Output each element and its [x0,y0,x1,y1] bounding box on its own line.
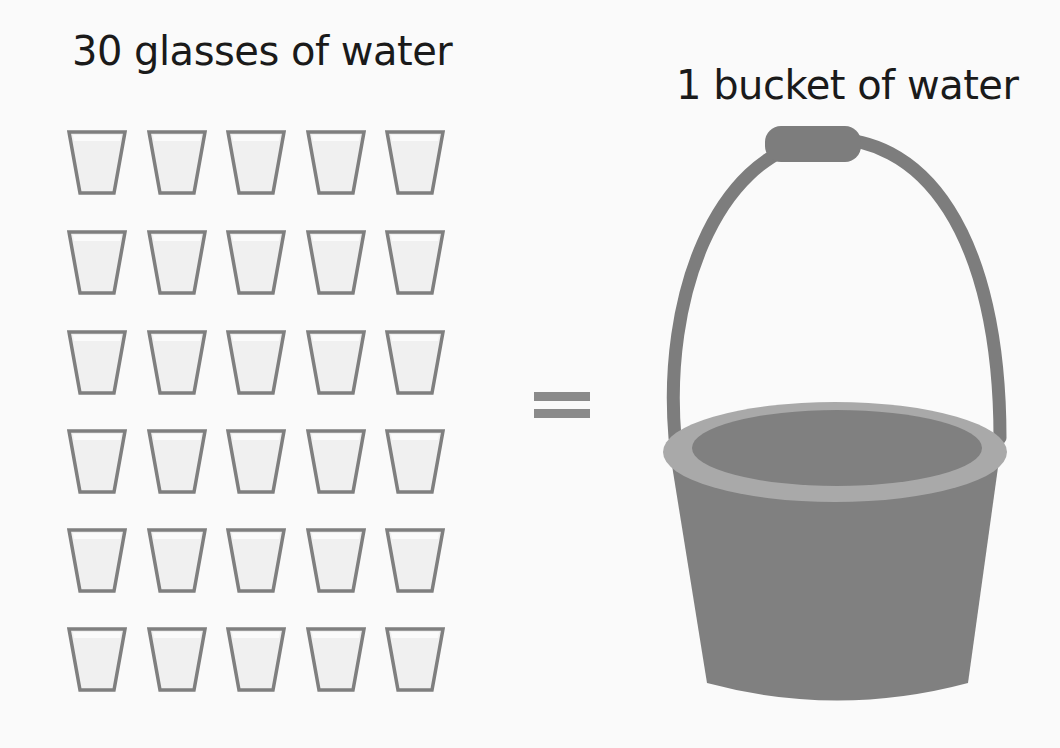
glass-icon [146,626,208,694]
glass-icon [66,527,128,595]
glass-icon [305,229,367,297]
glass-icon [384,527,446,595]
glass-icon [384,229,446,297]
bucket-title: 1 bucket of water [676,62,1018,108]
equals-icon [534,390,590,420]
glass-icon [146,428,208,496]
glass-icon [225,428,287,496]
glass-icon [225,626,287,694]
glass-icon [305,129,367,197]
bucket-icon [655,118,1020,718]
glass-icon [225,527,287,595]
glass-icon [305,527,367,595]
glass-icon [146,329,208,397]
glass-icon [384,129,446,197]
equals-bar-top [534,392,590,401]
glass-icon [146,229,208,297]
glass-icon [384,329,446,397]
glass-icon [384,428,446,496]
glass-icon [66,229,128,297]
glass-icon [146,527,208,595]
glass-icon [146,129,208,197]
glass-icon [66,428,128,496]
glass-icon [305,428,367,496]
glass-icon [225,329,287,397]
glass-icon [384,626,446,694]
equals-bar-bottom [534,409,590,418]
glasses-title: 30 glasses of water [72,28,452,74]
glass-icon [66,626,128,694]
glass-grid [66,129,466,699]
glass-icon [66,129,128,197]
glass-icon [305,329,367,397]
glass-icon [305,626,367,694]
glass-icon [225,129,287,197]
glass-icon [66,329,128,397]
glass-icon [225,229,287,297]
